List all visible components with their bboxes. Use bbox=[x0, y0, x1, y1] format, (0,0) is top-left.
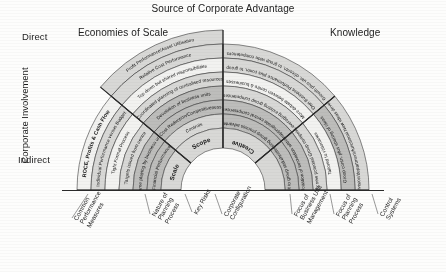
leader-line bbox=[372, 194, 378, 214]
leader-line bbox=[215, 194, 222, 214]
diagram-canvas: Source of Corporate Advantage Economies … bbox=[0, 0, 446, 272]
leader-line bbox=[145, 194, 150, 214]
leader-line bbox=[290, 194, 292, 214]
leader-line bbox=[185, 194, 192, 212]
leader-line bbox=[330, 194, 334, 214]
fan-diagram: ROCE, Profits & Cash FlowIndividual Perf… bbox=[0, 0, 446, 272]
